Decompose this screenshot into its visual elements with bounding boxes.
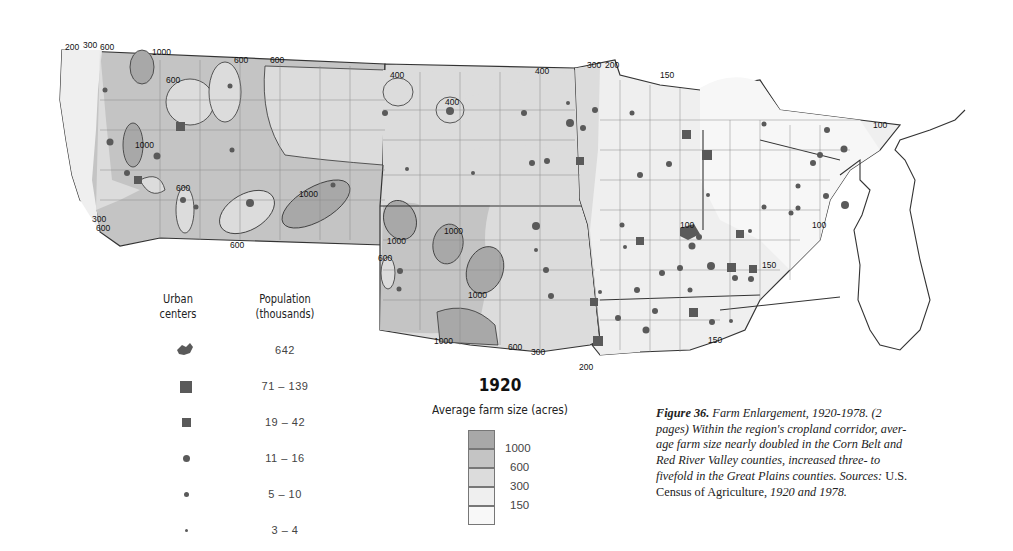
isoline-label: 1000	[444, 226, 463, 236]
legend-class-label: 600	[510, 461, 529, 473]
isoline-label: 100	[680, 220, 694, 230]
isoline-label: 150	[708, 335, 722, 345]
isoline-label: 1000	[152, 47, 171, 57]
city-square	[689, 308, 698, 317]
isoline-label: 200	[65, 42, 79, 52]
city-square	[576, 157, 584, 165]
isoline-label: 200	[605, 60, 619, 70]
medium-dot-icon	[184, 492, 189, 497]
swatch-600	[468, 449, 495, 468]
legend-population-header: Population (thousands)	[252, 292, 318, 322]
legend-row-label: 19 – 42	[250, 416, 320, 428]
isoline-label: 300	[531, 347, 545, 357]
isoline-label: 600	[100, 42, 114, 52]
legend-row: 642	[150, 344, 370, 364]
isoline-label: 600	[96, 223, 110, 233]
legend-header-line: Urban	[153, 292, 202, 307]
legend-row-label: 3 – 4	[250, 524, 320, 536]
figure-caption: Figure 36. Farm Enlargement, 1920-1978. …	[656, 406, 916, 500]
isoline-label: 600	[378, 253, 392, 263]
legend-urban-header: Urban centers	[153, 292, 202, 322]
isoline-label: 300	[587, 60, 601, 70]
isoline-label: 150	[762, 260, 776, 270]
isoline-label: 300	[83, 40, 97, 50]
small-square-icon	[182, 418, 191, 427]
isoline-label: 600	[230, 240, 244, 250]
isoline-label: 1000	[468, 290, 487, 300]
city-square	[636, 237, 644, 245]
legend-header-line: centers	[153, 307, 202, 322]
city-square	[590, 298, 598, 306]
figure-number: Figure 36.	[656, 406, 709, 420]
legend-class-label: 300	[510, 480, 529, 492]
isoline-label: 1000	[299, 189, 318, 199]
corn-belt-region	[575, 60, 900, 355]
small-dot-icon	[185, 529, 188, 532]
city-square	[593, 336, 603, 346]
isoline-label: 150	[660, 70, 674, 80]
legend-row-label: 642	[250, 344, 320, 356]
city-square	[176, 122, 185, 131]
isoline-label: 100	[812, 220, 826, 230]
large-square-icon	[180, 381, 192, 393]
isoline-label: 600	[270, 55, 284, 65]
isoline-label: 1000	[387, 236, 406, 246]
legend-row: 71 – 139	[150, 380, 370, 400]
caption-source-years: 1920 and 1978.	[770, 485, 847, 499]
city-square	[727, 263, 736, 272]
city-square	[682, 130, 691, 139]
isoline-label: 400	[535, 66, 549, 76]
city-square	[736, 230, 744, 238]
swatch-below-150	[468, 506, 495, 525]
swatch-150	[468, 487, 495, 506]
legend-row: 19 – 42	[150, 416, 370, 436]
city-shape-icon	[176, 342, 194, 356]
isoline-label: 400	[445, 97, 459, 107]
swatch-300	[468, 468, 495, 487]
legend-row: 11 – 16	[150, 452, 370, 472]
isoline-label: 1000	[434, 336, 453, 346]
legend-row-label: 11 – 16	[250, 452, 320, 464]
legend-row-label: 5 – 10	[250, 488, 320, 500]
isoline-label: 100	[873, 120, 887, 130]
large-dot-icon	[183, 455, 190, 462]
montana-region	[60, 50, 385, 246]
city-square	[702, 150, 712, 160]
legend-row: 5 – 10	[150, 488, 370, 508]
legend-row-label: 71 – 139	[250, 380, 320, 392]
city-square	[749, 265, 757, 273]
legend-header-line: (thousands)	[252, 307, 318, 322]
isoline-label: 400	[390, 70, 404, 80]
swatch-1000	[468, 430, 495, 449]
isoline-label: 600	[176, 183, 190, 193]
legend-class-label: 1000	[505, 442, 531, 454]
legend-header-line: Population	[252, 292, 318, 307]
isoline-label: 600	[508, 342, 522, 352]
isoline-label: 600	[234, 55, 248, 65]
isoline-label: 600	[166, 75, 180, 85]
legend-year: 1920	[424, 374, 577, 395]
isoline-label: 1000	[135, 140, 154, 150]
isoline-label: 200	[579, 362, 593, 372]
dakotas-region	[378, 64, 600, 352]
legend-class-label: 150	[510, 499, 529, 511]
legend-title: Average farm size (acres)	[407, 402, 594, 417]
city-square	[134, 176, 142, 184]
legend-row: 3 – 4	[150, 524, 370, 544]
